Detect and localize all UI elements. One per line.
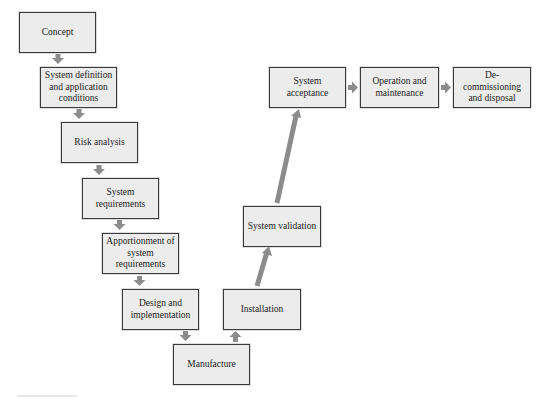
arrow-risk-to-requirements <box>93 165 105 175</box>
arrowhead-validation <box>262 246 272 256</box>
node-decommissioning: De-commissioning and disposal <box>453 67 531 108</box>
arrow-acceptance-to-operation <box>348 82 358 94</box>
node-label: Operation and maintenance <box>363 76 436 99</box>
node-label: De-commissioning and disposal <box>456 70 528 105</box>
node-label: System requirements <box>85 187 156 210</box>
arrow-operation-to-decommissioning <box>441 82 451 94</box>
arrow-requirements-to-apportionment <box>114 220 126 230</box>
arrowhead-acceptance <box>291 109 301 118</box>
node-label: Installation <box>241 304 284 316</box>
arrow-concept-to-definition <box>52 54 64 64</box>
node-system-definition: System definition and application condit… <box>40 67 117 108</box>
node-label: System definition and application condit… <box>43 70 114 105</box>
node-concept: Concept <box>19 12 96 53</box>
node-risk-analysis: Risk analysis <box>61 122 138 163</box>
arrow-installation-to-validation <box>257 252 267 286</box>
node-label: Risk analysis <box>74 137 124 149</box>
node-system-requirements: System requirements <box>82 178 159 219</box>
arrow-design-to-manufacture <box>180 331 192 341</box>
node-system-acceptance: System acceptance <box>269 67 346 108</box>
node-manufacture: Manufacture <box>173 344 250 385</box>
node-label: System validation <box>248 221 316 233</box>
node-system-validation: System validation <box>243 206 321 247</box>
node-label: Apportionment of system requirements <box>105 236 176 271</box>
node-label: Manufacture <box>187 359 236 371</box>
arrow-validation-to-acceptance <box>277 116 296 203</box>
node-label: System acceptance <box>272 76 343 99</box>
arrow-apportionment-to-design <box>134 276 146 286</box>
node-design-implementation: Design and implementation <box>122 289 199 330</box>
node-label: Concept <box>42 27 74 39</box>
node-operation-maintenance: Operation and maintenance <box>360 67 439 108</box>
node-installation: Installation <box>223 289 301 330</box>
node-label: Design and implementation <box>125 298 196 321</box>
arrow-definition-to-risk <box>73 109 85 119</box>
arrow-manufacture-to-installation <box>230 331 242 342</box>
node-apportionment: Apportionment of system requirements <box>102 233 179 274</box>
figure-caption-faint <box>17 395 77 397</box>
